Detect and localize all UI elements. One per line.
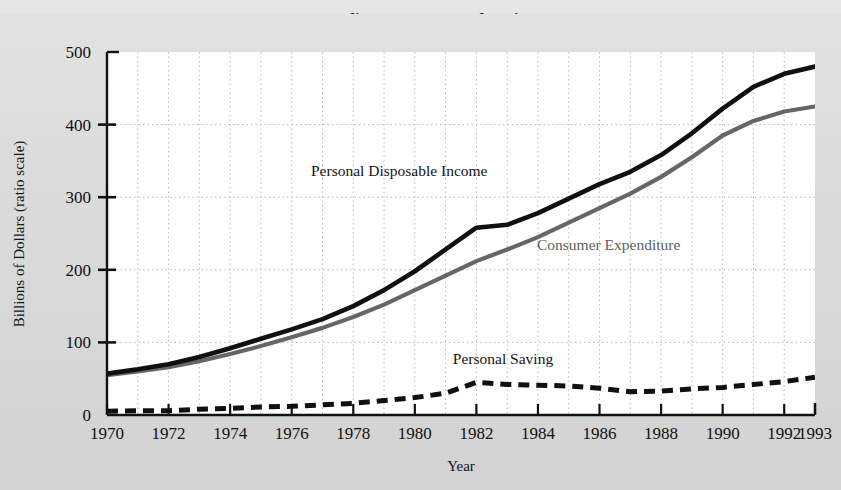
x-axis-tick-label: 1986 bbox=[583, 424, 617, 443]
line-chart: 0100200300400500 19701972197419761978198… bbox=[0, 0, 841, 490]
x-axis-tick-label: 1988 bbox=[644, 424, 678, 443]
y-axis-tick-label: 100 bbox=[66, 333, 92, 352]
x-axis-tick-label: 1992 bbox=[767, 424, 801, 443]
x-axis-title: Year bbox=[447, 458, 475, 474]
x-axis-tick-label: 1972 bbox=[152, 424, 186, 443]
x-axis-tick-label: 1978 bbox=[336, 424, 370, 443]
x-axis-tick-label: 1990 bbox=[706, 424, 740, 443]
annotation-consumer-expenditure: Consumer Expenditure bbox=[537, 236, 680, 253]
x-axis-tick-label: 1993 bbox=[798, 424, 832, 443]
y-axis-tick-label: 500 bbox=[66, 43, 92, 62]
x-axis-tick-label: 1982 bbox=[459, 424, 493, 443]
x-axis-tick-label: 1976 bbox=[275, 424, 309, 443]
y-axis-title: Billions of Dollars (ratio scale) bbox=[11, 141, 28, 328]
annotation-personal-disposable-income: Personal Disposable Income bbox=[311, 162, 488, 179]
y-axis-tick-label: 0 bbox=[83, 406, 92, 425]
y-axis-tick-label: 400 bbox=[66, 116, 92, 135]
annotation-personal-saving: Personal Saving bbox=[453, 350, 554, 367]
x-axis-tick-label: 1984 bbox=[521, 424, 556, 443]
y-axis-tick-label: 300 bbox=[66, 188, 92, 207]
y-axis-tick-label: 200 bbox=[66, 261, 92, 280]
x-axis-tick-label: 1980 bbox=[398, 424, 432, 443]
chart-container: 0100200300400500 19701972197419761978198… bbox=[0, 0, 841, 490]
x-axis-tick-label: 1974 bbox=[213, 424, 248, 443]
x-axis-tick-label: 1970 bbox=[90, 424, 124, 443]
